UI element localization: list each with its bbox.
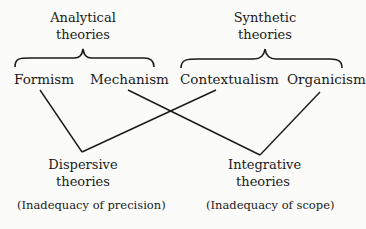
contextualism-label: Contextualism xyxy=(180,73,279,87)
synthetic-theories-label: Synthetic theories xyxy=(225,9,305,43)
organicism-to-integrative-line xyxy=(260,92,320,155)
integrative-theories-label: Integrative theories xyxy=(228,156,298,190)
mechanism-label: Mechanism xyxy=(90,73,169,87)
analytical-brace xyxy=(15,49,154,67)
formism-label: Formism xyxy=(14,73,74,87)
dispersive-note: (Inadequacy of precision) xyxy=(17,200,166,212)
formism-to-dispersive-line xyxy=(40,90,82,152)
contextualism-to-dispersive-line xyxy=(82,90,216,152)
integrative-note: (Inadequacy of scope) xyxy=(206,200,334,212)
analytical-theories-label: Analytical theories xyxy=(43,9,123,43)
dispersive-theories-label: Dispersive theories xyxy=(48,156,118,190)
organicism-label: Organicism xyxy=(287,73,366,87)
synthetic-brace xyxy=(181,49,342,68)
